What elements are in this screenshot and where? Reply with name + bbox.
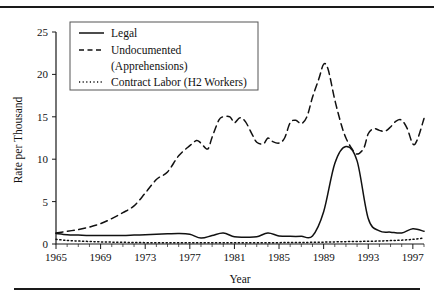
legend-label-contract: Contract Labor (H2 Workers) (111, 76, 247, 89)
legend-label-legal: Legal (111, 27, 137, 40)
x-tick-label: 1965 (45, 251, 68, 263)
x-tick-label: 1969 (90, 251, 113, 263)
y-axis-title: Rate per Thousand (12, 96, 25, 183)
figure-container: 0510152025 19651969197319771981198519891… (0, 0, 434, 298)
x-axis-title: Year (229, 273, 250, 285)
x-tick-label: 1981 (223, 251, 245, 263)
x-tick-label: 1989 (313, 251, 336, 263)
y-tick-label: 25 (37, 26, 49, 38)
y-tick-label: 15 (37, 111, 49, 123)
y-axis-tick-labels: 0510152025 (37, 26, 49, 250)
y-tick-label: 5 (43, 196, 49, 208)
legend-label-apprehensions: (Apprehensions) (111, 60, 188, 73)
chart-legend: Legal Undocumented (Apprehensions) Contr… (70, 22, 258, 90)
x-axis-ticks (56, 244, 413, 249)
x-tick-label: 1977 (179, 251, 202, 263)
series-line-legal (56, 146, 424, 238)
line-chart: 0510152025 19651969197319771981198519891… (0, 0, 434, 298)
y-tick-label: 0 (43, 238, 49, 250)
x-tick-label: 1993 (357, 251, 380, 263)
x-tick-label: 1997 (402, 251, 425, 263)
x-tick-label: 1985 (268, 251, 291, 263)
y-tick-label: 20 (37, 68, 49, 80)
y-tick-label: 10 (37, 153, 49, 165)
x-tick-label: 1973 (134, 251, 157, 263)
legend-label-undocumented: Undocumented (111, 44, 182, 56)
x-axis-tick-labels: 196519691973197719811985198919931997 (45, 251, 424, 263)
series-line-contract (56, 238, 424, 243)
